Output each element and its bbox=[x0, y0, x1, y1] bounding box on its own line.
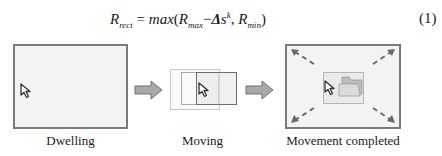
eq-arg2: R bbox=[238, 11, 247, 27]
cursor-arrow-icon bbox=[324, 80, 338, 96]
folder-icon bbox=[336, 74, 364, 98]
eq-func: max bbox=[149, 11, 174, 27]
eq-equals: = bbox=[137, 11, 145, 27]
eq-comma: , bbox=[231, 11, 235, 27]
eq-lhs: R bbox=[110, 11, 119, 27]
right-arrow-icon bbox=[245, 80, 275, 100]
eq-arg1: R bbox=[179, 11, 188, 27]
cursor-arrow-icon bbox=[198, 82, 212, 98]
stage-label-completed: Movement completed bbox=[270, 133, 416, 149]
eq-lhs-sub: rect bbox=[119, 20, 133, 30]
cursor-arrow-icon bbox=[20, 83, 34, 99]
eq-delta: Δ bbox=[211, 11, 220, 27]
stage-label-dwelling: Dwelling bbox=[13, 133, 128, 149]
eq-arg2-sub: min bbox=[247, 20, 261, 30]
stage-label-moving: Moving bbox=[165, 133, 240, 149]
eq-close: ) bbox=[261, 11, 266, 27]
equation-number: (1) bbox=[419, 10, 437, 27]
eq-arg1-sub: max bbox=[188, 20, 203, 30]
right-arrow-icon bbox=[134, 80, 164, 100]
equation: Rrect = max(Rmax−Δsk, Rmin) bbox=[110, 10, 266, 30]
